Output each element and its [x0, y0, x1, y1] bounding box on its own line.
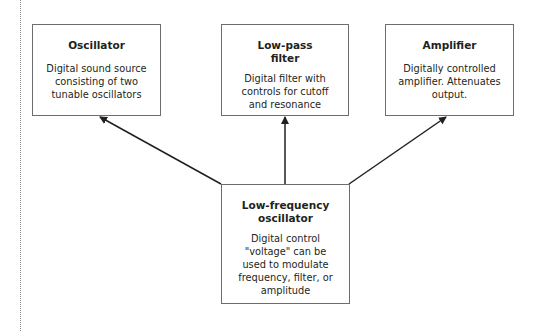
description-line: "voltage" can be	[228, 245, 343, 258]
description-line: frequency, filter, or	[228, 271, 343, 284]
node-description: Digitally controlled amplifier. Attenuat…	[386, 62, 513, 101]
arrow-lfo-to-oscillator	[100, 117, 221, 184]
description-line: used to modulate	[228, 258, 343, 271]
page-margin-rule	[20, 0, 21, 331]
node-title: Low-pass filter	[222, 39, 348, 65]
description-line: output.	[392, 88, 507, 101]
oscillator-node: Oscillator Digital sound source consisti…	[32, 24, 161, 116]
title-line: Low-frequency	[228, 199, 343, 212]
description-line: and resonance	[228, 98, 342, 111]
amplifier-node: Amplifier Digitally controlled amplifier…	[385, 24, 514, 116]
arrow-lfo-to-amplifier	[349, 117, 446, 184]
description-line: amplitude	[228, 284, 343, 297]
description-line: Digital sound source	[39, 62, 154, 75]
description-line: amplifier. Attenuates	[392, 75, 507, 88]
node-title: Oscillator	[33, 39, 160, 52]
title-line: Low-pass	[228, 39, 342, 52]
node-description: Digital control "voltage" can be used to…	[222, 232, 349, 297]
description-line: tunable oscillators	[39, 88, 154, 101]
node-description: Digital filter with controls for cutoff …	[222, 72, 348, 111]
description-line: consisting of two	[39, 75, 154, 88]
lowpass-filter-node: Low-pass filter Digital filter with cont…	[221, 24, 349, 116]
title-line: oscillator	[228, 212, 343, 225]
node-description: Digital sound source consisting of two t…	[33, 62, 160, 101]
description-line: controls for cutoff	[228, 85, 342, 98]
node-title: Amplifier	[386, 39, 513, 52]
description-line: Digitally controlled	[392, 62, 507, 75]
low-frequency-oscillator-node: Low-frequency oscillator Digital control…	[221, 184, 350, 304]
description-line: Digital filter with	[228, 72, 342, 85]
description-line: Digital control	[228, 232, 343, 245]
title-line: filter	[228, 52, 342, 65]
node-title: Low-frequency oscillator	[222, 199, 349, 225]
